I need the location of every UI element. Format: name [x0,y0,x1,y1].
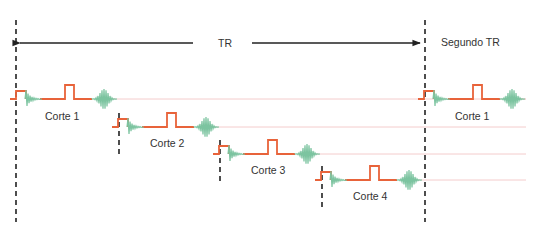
echo-signal [500,89,525,109]
echo-signal [92,89,117,109]
fid-signal [228,145,245,161]
rf-pulse-trace [112,113,194,127]
slice-5: Corte 1 [418,85,525,122]
fid-signal [127,118,144,134]
slice-2: Corte 2 [112,113,219,155]
slice-label: Corte 1 [45,110,80,122]
fid-signal [330,171,347,187]
slice-label: Corte 1 [455,110,490,122]
rf-pulse-trace [315,166,397,180]
slices: Corte 1Corte 2Corte 3Corte 4Corte 1 [10,85,525,208]
slice-4: Corte 4 [315,166,422,208]
fid-signal [433,90,450,106]
fid-signal [25,90,42,106]
slice-1: Corte 1 [10,85,117,122]
echo-signal [194,117,219,137]
pulse-sequence-diagram: TR Segundo TR Corte 1Corte 2Corte 3Corte… [0,0,536,236]
slice-3: Corte 3 [213,140,320,182]
rf-pulse-trace [10,85,92,99]
tr-label: TR [218,37,232,49]
rf-pulse-trace [418,85,500,99]
echo-signal [397,170,422,190]
slice-label: Corte 2 [150,137,185,149]
segundo-tr-label: Segundo TR [441,36,500,48]
echo-signal [295,144,320,164]
rf-pulse-trace [213,140,295,154]
slice-label: Corte 4 [353,190,388,202]
slice-label: Corte 3 [251,164,286,176]
